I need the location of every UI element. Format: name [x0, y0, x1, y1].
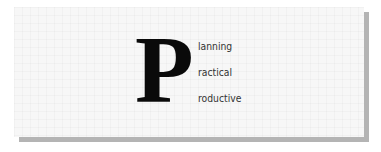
word-productive: roductive: [198, 92, 241, 104]
word-practical: ractical: [198, 66, 232, 78]
word-planning: lanning: [198, 40, 232, 52]
initial-letter: P: [135, 22, 194, 118]
